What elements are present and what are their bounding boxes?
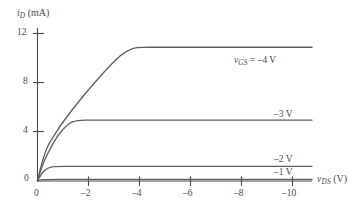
x-tick-label-minus-8: –8 (234, 189, 244, 199)
x-tick-label-minus-4: –4 (132, 189, 142, 199)
chart-plot-area (0, 0, 352, 206)
curve-label-vgs-minus-2: –2 V (274, 155, 293, 165)
curve-label-value: = –4 V (250, 55, 276, 65)
x-axis-subscript: DS (321, 177, 330, 186)
curve-vgs-minus-4 (38, 47, 313, 181)
curve-label-subscript: GS (238, 58, 247, 67)
curve-label-vgs-minus-3: –3 V (274, 110, 293, 120)
y-axis-unit: (mA) (28, 7, 50, 18)
x-axis-label: vDS (V) (317, 174, 347, 185)
x-axis-unit: (V) (333, 173, 347, 184)
curve-vgs-minus-3 (38, 120, 313, 181)
x-tick-label-minus-6: –6 (183, 189, 193, 199)
y-axis-ticks (33, 34, 44, 132)
curve-label-vgs-minus-1: –1 V (274, 168, 293, 178)
curve-label-vgs-minus-4: vGS = –4 V (234, 56, 276, 66)
x-tick-label-0: 0 (34, 189, 39, 199)
jfet-output-characteristics-figure: iD (mA) 12 8 4 0 0 –2 –4 –6 –8 –10 vDS (… (0, 0, 352, 206)
y-tick-label-4: 4 (23, 126, 28, 136)
characteristic-curves (38, 47, 313, 181)
x-tick-label-minus-10: –10 (282, 189, 296, 199)
y-axis-label: iD (mA) (17, 8, 49, 19)
x-tick-label-minus-2: –2 (81, 189, 91, 199)
y-tick-label-0: 0 (24, 174, 29, 184)
y-tick-label-8: 8 (23, 77, 28, 87)
y-tick-label-12: 12 (17, 28, 27, 38)
